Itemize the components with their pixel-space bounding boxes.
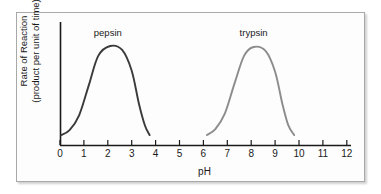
x-axis-tick-label: 9 xyxy=(265,148,285,159)
x-axis-tick-label: 5 xyxy=(170,148,190,159)
x-axis-tick-label: 3 xyxy=(122,148,142,159)
x-axis-tick-label: 4 xyxy=(146,148,166,159)
series-annotation-label: trypsin xyxy=(224,27,284,38)
x-axis-tick-label: 12 xyxy=(337,148,357,159)
x-axis-tick-label: 11 xyxy=(313,148,333,159)
x-axis-tick-label: 8 xyxy=(241,148,261,159)
series-annotation-label: pepsin xyxy=(78,27,138,38)
chart-axes xyxy=(60,22,351,146)
series-curve-pepsin xyxy=(61,46,149,135)
x-axis-tick-label: 2 xyxy=(98,148,118,159)
chart-canvas xyxy=(0,0,381,194)
figure-root: Rate of Reaction (product per unit of ti… xyxy=(0,0,381,194)
x-axis-tick-label: 1 xyxy=(74,148,94,159)
x-axis-tick-label: 10 xyxy=(289,148,309,159)
x-axis-tick-label: 6 xyxy=(193,148,213,159)
x-axis-label-text: pH xyxy=(198,166,211,177)
x-axis-tick-label: 7 xyxy=(217,148,237,159)
x-axis-tick-label: 0 xyxy=(50,148,70,159)
x-axis-ticks xyxy=(60,140,347,145)
series-curve-trypsin xyxy=(207,47,294,135)
x-axis-label: pH xyxy=(0,166,381,177)
chart-series-group xyxy=(61,46,294,135)
